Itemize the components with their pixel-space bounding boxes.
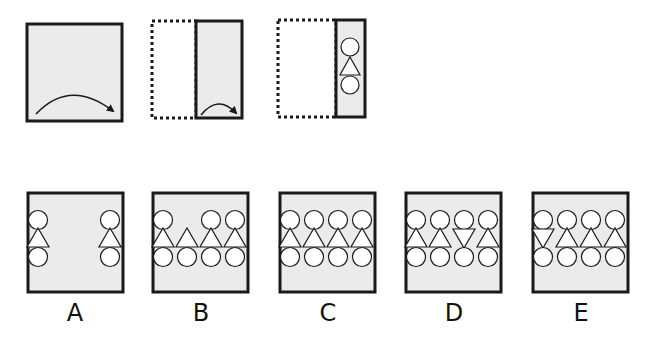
circle-hole-icon xyxy=(582,211,601,230)
option-label-a: A xyxy=(27,299,123,327)
circle-hole-icon xyxy=(353,211,372,230)
circle-hole-icon xyxy=(281,248,300,267)
circle-hole-icon xyxy=(407,211,426,230)
circle-hole-icon xyxy=(29,248,48,267)
step-3-folded-quarter xyxy=(278,20,365,117)
circle-hole-icon xyxy=(202,248,221,267)
option-b[interactable] xyxy=(152,193,248,292)
option-a[interactable] xyxy=(27,193,123,292)
option-d[interactable] xyxy=(405,193,501,292)
circle-hole-icon xyxy=(455,211,474,230)
circle-hole-icon xyxy=(558,211,577,230)
circle-hole-icon xyxy=(101,248,120,267)
answer-options xyxy=(27,193,628,292)
option-e[interactable] xyxy=(532,193,628,292)
circle-hole-icon xyxy=(154,211,173,230)
circle-hole-icon xyxy=(305,248,324,267)
circle-hole-icon xyxy=(341,38,359,56)
paper-folding-diagram xyxy=(0,0,645,338)
step-2-folded-half xyxy=(152,21,242,118)
option-label-b: B xyxy=(153,299,249,327)
option-c[interactable] xyxy=(279,193,375,292)
option-label-c: C xyxy=(280,299,376,327)
circle-hole-icon xyxy=(178,248,197,267)
circle-hole-icon xyxy=(202,211,221,230)
circle-hole-icon xyxy=(305,211,324,230)
circle-hole-icon xyxy=(329,248,348,267)
circle-hole-icon xyxy=(455,248,474,267)
option-label-d: D xyxy=(406,299,502,327)
circle-hole-icon xyxy=(431,211,450,230)
option-label-e: E xyxy=(533,299,629,327)
circle-hole-icon xyxy=(226,211,245,230)
circle-hole-icon xyxy=(101,211,120,230)
circle-hole-icon xyxy=(479,248,498,267)
circle-hole-icon xyxy=(606,248,625,267)
circle-hole-icon xyxy=(226,248,245,267)
circle-hole-icon xyxy=(431,248,450,267)
circle-hole-icon xyxy=(479,211,498,230)
step-1-square xyxy=(27,24,122,121)
circle-hole-icon xyxy=(534,211,553,230)
circle-hole-icon xyxy=(341,76,359,94)
circle-hole-icon xyxy=(582,248,601,267)
circle-hole-icon xyxy=(329,211,348,230)
circle-hole-icon xyxy=(606,211,625,230)
circle-hole-icon xyxy=(407,248,426,267)
circle-hole-icon xyxy=(29,211,48,230)
circle-hole-icon xyxy=(353,248,372,267)
circle-hole-icon xyxy=(154,248,173,267)
circle-hole-icon xyxy=(558,248,577,267)
circle-hole-icon xyxy=(534,248,553,267)
circle-hole-icon xyxy=(281,211,300,230)
